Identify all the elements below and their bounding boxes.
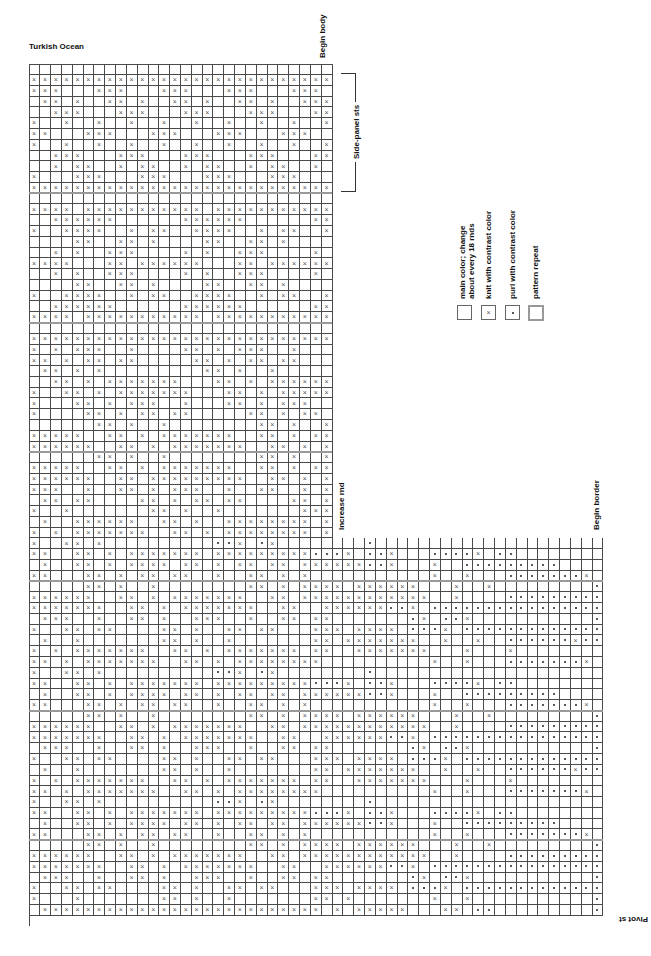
legend-knit-label: knit with contrast color [484, 211, 493, 299]
pattern-repeat-line [29, 839, 603, 841]
legend-main-color-swatch [457, 305, 472, 320]
pattern-repeat-line [29, 192, 332, 194]
side-panel-label: Side-panel sts [352, 102, 361, 162]
legend-main-color-label: main color; change about every 18 rnds [458, 223, 476, 299]
pattern-repeat-line [29, 451, 332, 453]
legend-purl-swatch [505, 305, 520, 320]
lower-grid-frame [29, 538, 604, 926]
pattern-repeat-line [29, 580, 603, 582]
upper-grid-frame [29, 64, 333, 539]
legend-repeat-label: pattern repeat [531, 246, 540, 299]
legend-knit-swatch [481, 305, 496, 320]
legend-repeat-swatch [528, 305, 544, 321]
begin-body-label: Begin body [318, 14, 327, 58]
pattern-repeat-line [29, 322, 332, 324]
begin-border-label: Begin border [592, 480, 601, 530]
chart-title: Turkish Ocean [29, 42, 84, 51]
pivot-st-label: Pivot st [619, 915, 648, 924]
legend-purl-label: purl with contrast color [508, 210, 517, 299]
increase-rnd-label: Increase rnd [337, 482, 346, 530]
legend-main-color-line1: main color; change [458, 223, 467, 299]
pattern-repeat-line [29, 710, 603, 712]
legend-main-color-line2: about every 18 rnds [467, 223, 476, 299]
